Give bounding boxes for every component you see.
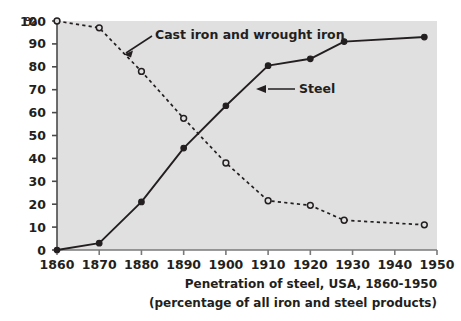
y-tick-label: 0 bbox=[37, 243, 46, 258]
x-tick-label: 1940 bbox=[377, 257, 412, 272]
data-point-marker bbox=[139, 68, 145, 74]
x-tick-label: 1900 bbox=[208, 257, 243, 272]
y-tick-label: 20 bbox=[29, 197, 47, 212]
data-point-marker bbox=[422, 34, 428, 40]
x-tick-label: 1950 bbox=[420, 257, 455, 272]
y-axis-unit-label: % bbox=[25, 14, 38, 29]
data-point-marker bbox=[308, 56, 314, 62]
data-point-marker bbox=[341, 217, 347, 223]
chart-figure: 0102030405060708090100 18601870188018901… bbox=[0, 0, 461, 321]
x-tick-label: 1930 bbox=[335, 257, 370, 272]
data-point-marker bbox=[223, 103, 229, 109]
data-point-marker bbox=[54, 18, 60, 24]
y-tick-label: 90 bbox=[29, 36, 47, 51]
x-tick-label: 1890 bbox=[166, 257, 201, 272]
data-point-marker bbox=[181, 115, 187, 121]
y-tick-label: 60 bbox=[29, 105, 47, 120]
data-point-marker bbox=[54, 247, 60, 253]
x-tick-label: 1880 bbox=[124, 257, 159, 272]
data-point-marker bbox=[96, 240, 102, 246]
data-point-marker bbox=[223, 160, 229, 166]
cast-iron-annotation-label: Cast iron and wrought iron bbox=[155, 27, 345, 42]
steel-annotation-label: Steel bbox=[299, 81, 335, 96]
x-tick-label: 1860 bbox=[40, 257, 75, 272]
data-point-marker bbox=[181, 145, 187, 151]
y-tick-label: 10 bbox=[29, 220, 47, 235]
plot-area-background bbox=[57, 21, 437, 250]
x-tick-label: 1920 bbox=[293, 257, 328, 272]
y-tick-label: 50 bbox=[29, 128, 47, 143]
caption-line-2: (percentage of all iron and steel produc… bbox=[149, 296, 437, 310]
caption-line-1: Penetration of steel, USA, 1860-1950 bbox=[185, 277, 437, 291]
y-tick-label: 70 bbox=[29, 82, 47, 97]
x-tick-label: 1910 bbox=[251, 257, 286, 272]
y-tick-label: 40 bbox=[29, 151, 47, 166]
data-point-marker bbox=[265, 198, 271, 204]
data-point-marker bbox=[96, 25, 102, 31]
data-point-marker bbox=[421, 222, 427, 228]
y-tick-label: 30 bbox=[29, 174, 47, 189]
data-point-marker bbox=[139, 199, 145, 205]
y-tick-label: 80 bbox=[29, 59, 47, 74]
penetration-of-steel-line-chart: 0102030405060708090100 18601870188018901… bbox=[0, 0, 461, 321]
x-tick-label: 1870 bbox=[82, 257, 117, 272]
data-point-marker bbox=[265, 63, 271, 69]
data-point-marker bbox=[307, 202, 313, 208]
